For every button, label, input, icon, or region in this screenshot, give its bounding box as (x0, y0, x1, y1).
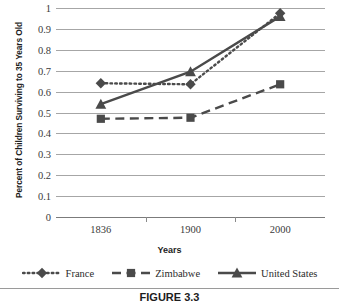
x-axis-tick-label: 1836 (90, 224, 111, 235)
series-line (101, 16, 280, 104)
legend-swatch (22, 266, 62, 280)
data-point-marker (97, 115, 105, 123)
x-axis-tick-mark (146, 217, 147, 222)
legend-label: United States (261, 268, 317, 279)
x-axis-tick-label: 1900 (180, 224, 201, 235)
x-axis-line (56, 217, 325, 218)
y-axis-tick-label: 0.5 (38, 107, 51, 118)
caption-divider (0, 288, 339, 289)
y-axis-title: Percent of Children Surviving to 35 Year… (14, 5, 24, 215)
figure-container: Percent of Children Surviving to 35 Year… (0, 0, 339, 306)
y-axis-tick-label: 0.3 (38, 149, 51, 160)
legend-item-united-states[interactable]: United States (217, 266, 317, 280)
data-point-marker (185, 66, 196, 76)
legend-swatch (217, 266, 257, 280)
y-axis-tick-label: 0.1 (38, 191, 51, 202)
series-group (56, 8, 325, 217)
y-axis-tick-label: 0.9 (38, 23, 51, 34)
data-point-marker (276, 80, 284, 88)
series-france (96, 8, 286, 89)
data-point-marker (186, 114, 194, 122)
data-point-marker (185, 79, 195, 89)
y-axis-tick-label: 0.8 (38, 44, 51, 55)
chart-legend: FranceZimbabweUnited States (0, 266, 339, 280)
y-axis-tick-label: 1 (46, 3, 51, 14)
y-axis-tick-label: 0 (46, 212, 51, 223)
x-axis-title: Years (0, 245, 339, 255)
legend-label: France (66, 268, 95, 279)
x-axis-tick-mark (235, 217, 236, 222)
y-axis-tick-label: 0.2 (38, 170, 51, 181)
legend-item-zimbabwe[interactable]: Zimbabwe (111, 266, 200, 280)
legend-item-france[interactable]: France (22, 266, 95, 280)
y-axis-tick-label: 0.6 (38, 86, 51, 97)
y-axis-tick-label: 0.4 (38, 128, 51, 139)
data-point-marker (96, 78, 106, 88)
legend-swatch (111, 266, 151, 280)
plot-area: 00.10.20.30.40.50.60.70.80.91 (56, 8, 325, 217)
x-axis-tick-label: 2000 (270, 224, 291, 235)
figure-caption: FIGURE 3.3 (0, 291, 339, 303)
legend-label: Zimbabwe (155, 268, 200, 279)
y-axis-tick-label: 0.7 (38, 65, 51, 76)
